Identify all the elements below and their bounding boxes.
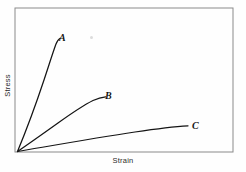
stress-strain-figure: A B C Strain Stress — [0, 0, 246, 172]
curve-c — [18, 126, 189, 152]
plot-canvas — [0, 0, 246, 172]
curve-b — [18, 97, 106, 152]
curve-label-a: A — [59, 32, 66, 43]
x-axis-label: Strain — [0, 156, 246, 165]
y-axis-label: Stress — [3, 62, 12, 110]
curve-label-c: C — [192, 120, 199, 131]
scan-speck-artifact — [90, 36, 93, 39]
curve-label-b: B — [105, 90, 112, 101]
curve-a — [18, 38, 61, 151]
